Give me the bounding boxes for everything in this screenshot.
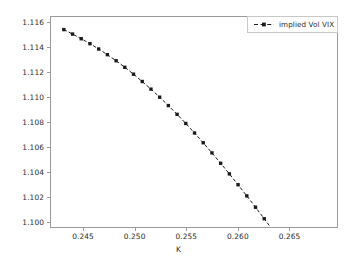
x-axis-tick-mark	[238, 228, 239, 231]
x-axis-tick-mark	[186, 228, 187, 231]
series-marker	[62, 28, 65, 31]
y-axis-tick-mark	[47, 197, 50, 198]
y-axis-tick-label: 1.108	[22, 118, 44, 127]
x-axis-tick-label: 0.250	[124, 232, 146, 241]
x-axis-tick-mark	[135, 228, 136, 231]
legend-entry-label: implied Vol VIX	[279, 20, 334, 29]
series-marker	[141, 80, 144, 83]
x-axis-tick-label: 0.265	[279, 232, 301, 241]
series-line	[64, 30, 325, 227]
y-axis-tick-label: 1.112	[22, 68, 44, 77]
y-axis-tick-mark	[47, 97, 50, 98]
x-axis-tick-mark	[83, 228, 84, 231]
y-axis-tick-mark	[47, 47, 50, 48]
y-axis-tick-mark	[47, 147, 50, 148]
x-axis-tick-mark	[289, 228, 290, 231]
legend-line-marker-icon	[253, 20, 275, 29]
series-marker	[202, 141, 205, 144]
x-axis-tick-label: 0.260	[227, 232, 249, 241]
series-marker	[193, 131, 196, 134]
series-marker	[97, 47, 100, 50]
series-marker	[175, 113, 178, 116]
series-marker	[71, 32, 74, 35]
series-marker	[254, 206, 257, 209]
series-marker	[184, 122, 187, 125]
series-marker	[123, 66, 126, 69]
series-marker	[80, 37, 83, 40]
y-axis-tick-labels: 1.1001.1021.1041.1061.1081.1101.1121.114…	[0, 0, 44, 267]
series-marker	[228, 172, 231, 175]
chart-legend: implied Vol VIX	[247, 16, 338, 33]
y-axis-tick-mark	[47, 172, 50, 173]
series-marker	[263, 217, 266, 220]
series-marker	[210, 151, 213, 154]
series-marker	[149, 87, 152, 90]
y-axis-tick-mark	[47, 22, 50, 23]
series-marker	[106, 53, 109, 56]
y-axis-tick-mark	[47, 222, 50, 223]
x-axis-tick-label: 0.255	[175, 232, 197, 241]
series-marker	[114, 59, 117, 62]
y-axis-tick-label: 1.100	[22, 217, 44, 226]
y-axis-tick-label: 1.110	[22, 93, 44, 102]
series-marker	[88, 42, 91, 45]
x-axis-label: K	[0, 245, 357, 254]
y-axis-tick-label: 1.106	[22, 142, 44, 151]
series-marker	[167, 104, 170, 107]
x-axis-tick-label: 0.245	[72, 232, 94, 241]
y-axis-tick-mark	[47, 72, 50, 73]
chart-figure: 1.1001.1021.1041.1061.1081.1101.1121.114…	[0, 0, 357, 267]
y-axis-tick-label: 1.114	[22, 43, 44, 52]
data-series-plot	[51, 17, 337, 227]
series-marker	[219, 162, 222, 165]
series-marker	[132, 73, 135, 76]
plot-axes-area	[50, 16, 338, 228]
series-marker	[158, 95, 161, 98]
series-marker	[245, 194, 248, 197]
y-axis-tick-mark	[47, 122, 50, 123]
series-marker	[236, 183, 239, 186]
y-axis-tick-label: 1.104	[22, 167, 44, 176]
x-axis-tick-labels: 0.2450.2500.2550.2600.265	[0, 232, 357, 244]
y-axis-tick-label: 1.116	[22, 18, 44, 27]
y-axis-tick-label: 1.102	[22, 192, 44, 201]
